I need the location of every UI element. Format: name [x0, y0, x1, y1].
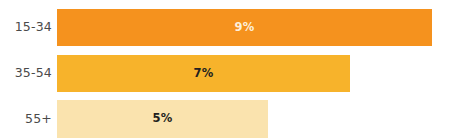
bar-value-label-15-34: 9%: [235, 22, 255, 34]
bar-chart: 15-34 9% 35-54 7% 55+ 5%: [0, 0, 450, 138]
bar-value-label-55-plus: 5%: [153, 113, 173, 125]
category-label-35-54: 35-54: [0, 67, 52, 80]
bar-value-label-35-54: 7%: [194, 68, 214, 80]
category-label-55-plus: 55+: [0, 113, 52, 126]
bar-55-plus[interactable]: 5%: [57, 100, 268, 138]
bar-15-34[interactable]: 9%: [57, 9, 432, 46]
category-label-15-34: 15-34: [0, 21, 52, 34]
bar-35-54[interactable]: 7%: [57, 55, 350, 92]
